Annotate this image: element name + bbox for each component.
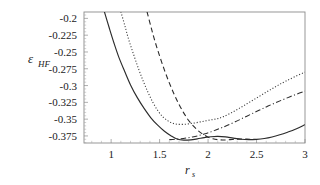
y-tick-label-0: -0.2 [60, 12, 77, 24]
y-axis-label-subscript: HF [37, 59, 50, 69]
x-tick-label-4: 3 [302, 148, 308, 160]
dotted-curve [121, 12, 305, 125]
x-axis-ticks [92, 139, 305, 143]
x-axis-label: r s [185, 163, 195, 179]
x-axis-tick-labels: 11.522.53 [108, 148, 308, 160]
x-axis-label-main: r [185, 163, 190, 177]
data-curves [104, 12, 305, 141]
dashed-curve [147, 12, 257, 140]
x-tick-label-1: 1.5 [153, 148, 167, 160]
y-axis-label: ε HF [28, 51, 50, 69]
y-tick-label-6: -0.35 [54, 113, 77, 125]
y-tick-label-5: -0.325 [49, 96, 78, 108]
x-tick-label-0: 1 [108, 148, 114, 160]
chart-svg: 11.522.53 -0.2-0.225-0.25-0.275-0.3-0.32… [0, 0, 320, 185]
chart-figure: 11.522.53 -0.2-0.225-0.25-0.275-0.3-0.32… [0, 0, 320, 185]
dash-dot-curve [169, 91, 305, 139]
y-tick-label-3: -0.275 [49, 63, 78, 75]
y-tick-label-4: -0.3 [60, 80, 78, 92]
y-axis-ticks [84, 15, 88, 143]
y-tick-label-7: -0.375 [49, 130, 78, 142]
y-axis-label-main: ε [28, 51, 34, 66]
solid-curve [104, 12, 305, 141]
y-tick-label-1: -0.225 [49, 29, 78, 41]
y-axis-tick-labels: -0.2-0.225-0.25-0.275-0.3-0.325-0.35-0.3… [49, 12, 78, 142]
x-tick-label-3: 2.5 [250, 148, 264, 160]
x-axis-label-subscript: s [192, 170, 195, 179]
y-tick-label-2: -0.25 [54, 46, 77, 58]
x-tick-label-2: 2 [205, 148, 211, 160]
